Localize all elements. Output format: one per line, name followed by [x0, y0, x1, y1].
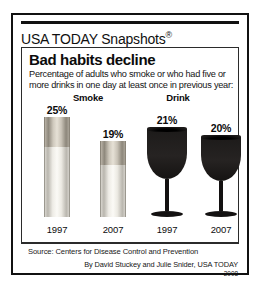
value-label-smoke-1997: 25%: [30, 104, 84, 116]
subtitle: Percentage of adults who smoke or who ha…: [29, 69, 235, 90]
byline: By David Stuckey and Julie Snider, USA T…: [84, 260, 238, 277]
wine-glass-bowl: [201, 135, 241, 181]
cigarette-icon: [44, 117, 70, 217]
wine-glass-icon: [147, 127, 187, 217]
masthead: USA TODAY Snapshots®: [21, 21, 239, 47]
year-label-smoke-1997: 1997: [30, 224, 84, 235]
bar-drink-1997: 21%: [140, 114, 194, 217]
year-label-smoke-2007: 2007: [86, 224, 140, 235]
cigarette-filter: [44, 117, 70, 147]
source-divider: [21, 243, 239, 244]
bar-smoke-1997: 25%: [30, 104, 84, 217]
registered-trademark-icon: ®: [166, 30, 173, 40]
byline-year: 2008: [84, 270, 238, 277]
value-label-smoke-2007: 19%: [86, 128, 140, 140]
wine-glass-stem: [219, 181, 223, 211]
snapshot-panel: Bad habits decline Percentage of adults …: [21, 47, 239, 243]
wine-glass-bowl: [147, 127, 187, 179]
masthead-brand: USA TODAY Snapshots: [21, 31, 166, 47]
page-title: Bad habits decline: [29, 51, 155, 68]
masthead-rule: [21, 21, 239, 24]
cigarette-filter: [100, 141, 126, 165]
cigarette-body: [44, 147, 70, 217]
wine-glass-foot: [205, 211, 237, 217]
year-label-drink-1997: 1997: [140, 224, 194, 235]
wine-glass-icon: [201, 135, 241, 217]
wine-glass-stem: [165, 179, 169, 211]
wine-glass-foot: [151, 211, 183, 217]
value-label-drink-1997: 21%: [140, 114, 194, 126]
masthead-title: USA TODAY Snapshots®: [21, 27, 239, 47]
group-label-smoke: Smoke: [60, 92, 116, 103]
byline-credit: By David Stuckey and Julie Snider, USA T…: [84, 260, 238, 269]
value-label-drink-2007: 20%: [194, 122, 248, 134]
group-label-drink: Drink: [150, 92, 206, 103]
bar-smoke-2007: 19%: [86, 128, 140, 217]
chart: Smoke Drink 25% 19% 21%: [22, 92, 238, 243]
year-label-drink-2007: 2007: [194, 224, 248, 235]
cigarette-icon: [100, 141, 126, 217]
source-note: Source: Centers for Disease Control and …: [28, 247, 198, 256]
snapshot-frame: USA TODAY Snapshots® Bad habits decline …: [11, 13, 249, 275]
bar-drink-2007: 20%: [194, 122, 248, 217]
cigarette-body: [100, 165, 126, 217]
